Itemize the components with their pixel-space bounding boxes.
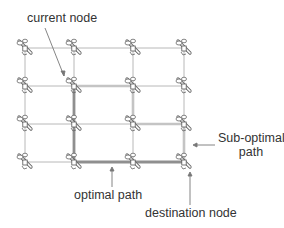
sub-optimal-label-line2: path — [218, 145, 284, 159]
drone-icon — [17, 77, 31, 93]
arrow-head-icon — [193, 143, 197, 147]
drone-icon — [17, 39, 31, 55]
grid-nodes — [17, 39, 190, 169]
current-node-label: current node — [27, 11, 97, 25]
optimal-path-label: optimal path — [74, 188, 142, 202]
drone-icon — [17, 153, 31, 169]
sub-optimal-label-line1: Sub-optimal — [218, 131, 284, 145]
arrow-head-icon — [188, 172, 192, 176]
grid-lines — [25, 48, 184, 162]
sub-optimal-path-label: Sub-optimal path — [218, 131, 284, 159]
drone-icon — [176, 77, 190, 93]
destination-node-label: destination node — [145, 206, 237, 220]
arrow-head-icon — [110, 167, 114, 171]
arrow-head-icon — [61, 71, 65, 76]
drone-icon — [125, 39, 139, 55]
drone-icon — [66, 39, 80, 55]
drone-icon — [176, 39, 190, 55]
drone-icon — [17, 115, 31, 131]
current-node-arrow — [45, 28, 64, 76]
